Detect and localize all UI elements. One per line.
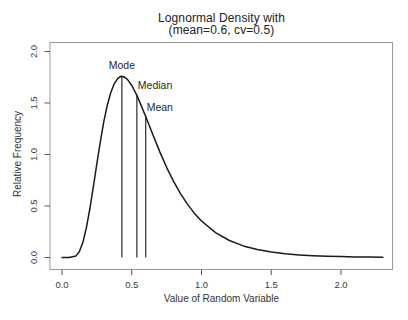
x-tick-label: 0.0	[55, 279, 68, 290]
x-tick-label: 1.5	[265, 279, 278, 290]
y-tick-label: 0.0	[28, 251, 39, 264]
x-tick-label: 0.5	[125, 279, 138, 290]
stat-label-mode: Mode	[109, 59, 135, 71]
lognormal-density-figure: Lognormal Density with (mean=0.6, cv=0.5…	[0, 0, 408, 320]
y-tick-label: 2.0	[28, 45, 39, 58]
chart-canvas: 0.00.51.01.52.00.00.51.01.52.0ModeMedian…	[0, 0, 408, 320]
stat-label-mean: Mean	[147, 101, 173, 113]
x-tick-label: 2.0	[334, 279, 347, 290]
y-tick-label: 0.5	[28, 199, 39, 212]
y-tick-label: 1.5	[28, 96, 39, 109]
y-tick-label: 1.0	[28, 148, 39, 161]
stat-label-median: Median	[138, 79, 173, 91]
x-tick-label: 1.0	[195, 279, 208, 290]
density-curve	[62, 76, 383, 257]
x-axis-title: Value of Random Variable	[50, 293, 393, 304]
